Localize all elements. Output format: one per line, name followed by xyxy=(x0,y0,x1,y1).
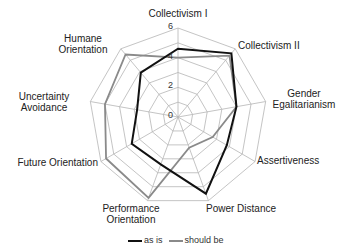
radial-tick: 2 xyxy=(168,81,173,90)
legend: as is should be xyxy=(128,235,224,245)
legend-swatch-as-is xyxy=(128,240,142,242)
axis-label-humane-orientation: HumaneOrientation xyxy=(48,33,118,55)
axis-spoke xyxy=(178,49,235,117)
axis-label-collectivism-i: Collectivism I xyxy=(138,8,218,19)
axis-label-uncertainty-avoidance: UncertaintyAvoidance xyxy=(8,91,80,113)
axis-label-collectivism-ii: Collectivism II xyxy=(238,40,318,51)
axis-label-performance-orientation: PerformanceOrientation xyxy=(98,203,164,225)
radial-tick: 4 xyxy=(168,52,173,61)
axis-label-future-orientation: Future Orientation xyxy=(4,157,98,168)
legend-item-should-be: should be xyxy=(169,235,224,245)
legend-item-as-is: as is xyxy=(128,235,163,245)
axis-spoke xyxy=(90,102,178,117)
axis-spoke xyxy=(178,102,266,117)
legend-swatch-should-be xyxy=(169,240,183,242)
axis-label-gender-egalitarianism: GenderEgalitarianism xyxy=(266,88,342,110)
series-should-be xyxy=(105,55,236,198)
axis-spoke xyxy=(178,117,255,162)
axis-label-assertiveness: Assertiveness xyxy=(257,155,337,166)
radial-tick: 0 xyxy=(168,111,173,120)
radial-tick: 6 xyxy=(168,22,173,31)
axis-spoke xyxy=(101,117,178,162)
axis-label-power-distance: Power Distance xyxy=(206,203,286,214)
